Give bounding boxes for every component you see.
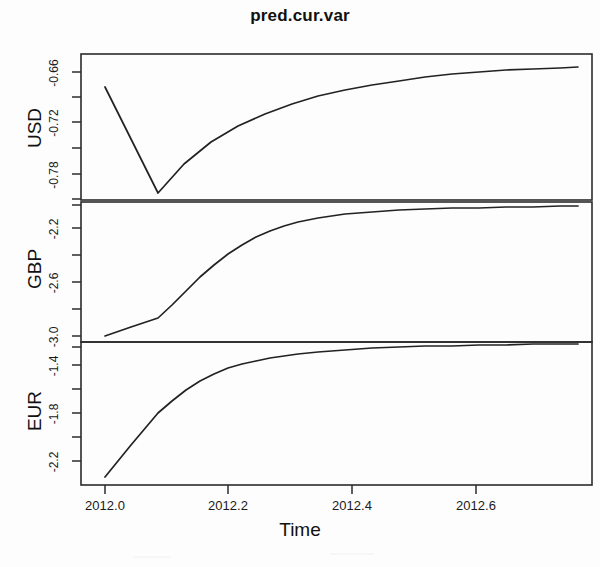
eur-tick-label-1: -1.8 <box>47 394 61 434</box>
eur-series-line <box>105 344 578 477</box>
x-tick-label-2: 2012.4 <box>312 498 392 513</box>
x-tick-label-3: 2012.6 <box>436 498 516 513</box>
eur-axis-label: EUR <box>24 371 46 451</box>
eur-tick-label-2: -2.2 <box>47 442 61 482</box>
x-tick-label-1: 2012.2 <box>188 498 268 513</box>
x-axis-title: Time <box>0 519 600 541</box>
eur-panel-graphics <box>0 0 600 567</box>
scan-artifact <box>133 556 171 558</box>
plot-figure: pred.cur.var USD -0.66 -0.72 -0.78 <box>0 0 600 567</box>
scan-artifact <box>330 553 374 555</box>
x-tick-label-0: 2012.0 <box>65 498 145 513</box>
eur-tick-label-0: -1.4 <box>47 346 61 386</box>
